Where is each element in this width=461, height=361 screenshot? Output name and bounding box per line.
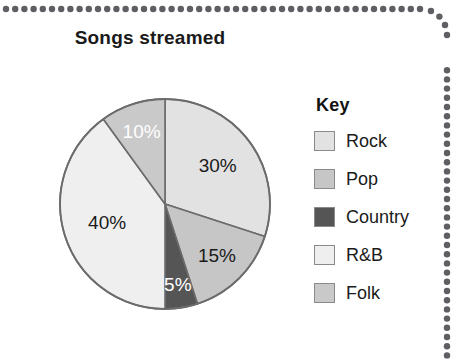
pie-slice-label-pop: 15% bbox=[198, 245, 236, 266]
legend-item-label: Rock bbox=[346, 132, 387, 150]
legend-swatch-icon bbox=[314, 245, 335, 265]
pie-slice-label-rock: 30% bbox=[199, 155, 237, 176]
legend-item-label: Folk bbox=[346, 284, 380, 302]
legend-swatch-icon bbox=[314, 207, 335, 227]
pie-slice-label-folk: 10% bbox=[123, 121, 161, 142]
legend-item-country[interactable]: Country bbox=[314, 204, 454, 230]
pie-chart-svg: 30%15%5%40%10% bbox=[58, 97, 272, 311]
legend: Key RockPopCountryR&BFolk bbox=[314, 95, 454, 318]
legend-item-pop[interactable]: Pop bbox=[314, 166, 454, 192]
legend-title: Key bbox=[316, 95, 454, 116]
legend-swatch-icon bbox=[314, 131, 335, 151]
legend-item-label: Pop bbox=[346, 170, 378, 188]
pie-chart: 30%15%5%40%10% bbox=[58, 97, 272, 311]
legend-item-folk[interactable]: Folk bbox=[314, 280, 454, 306]
legend-swatch-icon bbox=[314, 169, 335, 189]
pie-chart-page: Songs streamed 30%15%5%40%10% Key RockPo… bbox=[0, 0, 461, 361]
chart-title: Songs streamed bbox=[0, 27, 300, 49]
legend-swatch-icon bbox=[314, 283, 335, 303]
pie-slice-label-country: 5% bbox=[164, 274, 192, 295]
pie-slice-label-r-b: 40% bbox=[88, 212, 126, 233]
legend-items: RockPopCountryR&BFolk bbox=[314, 128, 454, 306]
legend-item-rock[interactable]: Rock bbox=[314, 128, 454, 154]
legend-item-r-b[interactable]: R&B bbox=[314, 242, 454, 268]
legend-item-label: Country bbox=[346, 208, 409, 226]
legend-item-label: R&B bbox=[346, 246, 383, 264]
